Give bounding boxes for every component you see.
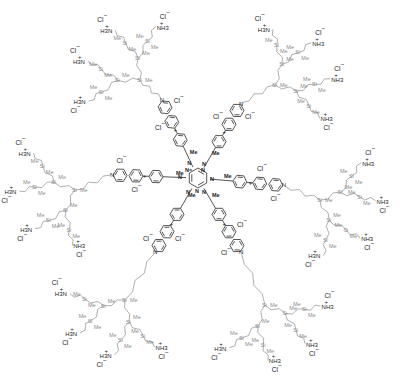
methyl-label: Me xyxy=(128,46,136,52)
minus-charge: − xyxy=(162,120,166,127)
methyl-label: Me xyxy=(70,202,78,208)
methyl-label: Me xyxy=(136,33,144,39)
methyl-label: Me xyxy=(303,76,311,82)
chloride-ion: Cl− xyxy=(132,182,143,193)
minus-charge: − xyxy=(277,191,281,198)
hydrazone-n: N xyxy=(187,160,191,166)
methyl-label: Me xyxy=(79,313,87,319)
minus-charge: − xyxy=(76,43,80,50)
silicon-label: Si xyxy=(98,66,103,72)
arm-left: NMe+NCl−Cl−SiMeSiMeSiMeMeNH3+Cl−SiMeMeH3… xyxy=(1,135,186,259)
plus-charge: + xyxy=(170,221,174,227)
minus-charge: − xyxy=(219,109,223,116)
silicon-label: Si xyxy=(357,194,362,200)
pyridinium-n: N xyxy=(282,182,286,188)
chloride-ion: Cl− xyxy=(237,217,248,228)
minus-charge: − xyxy=(138,182,142,189)
methyl-label: Me xyxy=(94,324,102,330)
arm-bottom-right: NMe+NCl−Cl−SiMeSiMeSiMeMeNH3+Cl−SiMeMeNH… xyxy=(202,188,335,373)
minus-charge: − xyxy=(372,145,376,152)
plus-charge: + xyxy=(105,348,109,354)
plus-charge: + xyxy=(324,111,328,117)
chloride-ion: Cl− xyxy=(245,109,256,120)
methyl-label: Me xyxy=(88,302,96,308)
ammonium-group: NH3+ xyxy=(362,156,375,167)
arm-top-left: NMe+NCl−Cl−SiMeSiMeSiMeMeH3N+Cl−SiMeMeH3… xyxy=(70,9,198,167)
pyridinium-n: N xyxy=(239,101,243,107)
silicon-label: Si xyxy=(349,173,354,179)
minus-charge: − xyxy=(315,346,319,353)
plus-charge: + xyxy=(334,72,338,78)
silicon-label: Si xyxy=(279,61,284,67)
chloride-ion: Cl− xyxy=(257,161,268,172)
silicon-label: Si xyxy=(145,38,150,44)
plus-charge: + xyxy=(160,20,164,26)
methyl-label: Me xyxy=(105,95,113,101)
silicon-label: Si xyxy=(338,189,343,195)
minus-charge: − xyxy=(386,203,390,210)
methyl-label: Me xyxy=(38,190,46,196)
methyl-label: Me xyxy=(130,297,138,303)
ammonium-group: H3N+ xyxy=(258,22,270,33)
methyl-label: Me xyxy=(348,189,356,195)
methyl-label: Me xyxy=(80,187,88,193)
methyl-label: Me xyxy=(108,298,116,304)
core-n-label: N≈ xyxy=(185,167,192,173)
chloride-ion: Cl− xyxy=(97,12,108,23)
chloride-ion: Cl− xyxy=(160,9,171,20)
silicon-label: Si xyxy=(343,227,348,233)
minus-charge: − xyxy=(104,12,108,19)
methyl-label: Me xyxy=(131,328,139,334)
methyl-label: Me xyxy=(37,212,45,218)
silicon-label: Si xyxy=(323,237,328,243)
methyl-label: Me xyxy=(340,168,348,174)
minus-charge: − xyxy=(227,245,231,252)
silicon-label: Si xyxy=(326,217,331,223)
methyl-label: Me xyxy=(104,72,112,78)
methyl-label: Me xyxy=(212,192,220,198)
plus-charge: + xyxy=(309,337,313,343)
methyl-label: Me xyxy=(334,222,342,228)
ammonium-group: NH3+ xyxy=(331,72,344,83)
methyl-label: Me xyxy=(293,301,301,307)
methyl-label: Me xyxy=(286,44,294,50)
methyl-label: Me xyxy=(124,343,132,349)
methyl-label: Me xyxy=(190,149,198,155)
minus-charge: − xyxy=(69,335,73,342)
minus-charge: − xyxy=(261,11,265,18)
methyl-label: Me xyxy=(122,72,130,78)
minus-charge: − xyxy=(165,349,169,356)
plus-charge: + xyxy=(79,94,83,100)
minus-charge: − xyxy=(278,362,282,369)
chloride-ion: Cl− xyxy=(175,231,186,242)
pyridinium-n: N xyxy=(239,249,243,255)
chloride-ion: Cl− xyxy=(143,231,154,242)
plus-charge: + xyxy=(60,286,64,292)
methyl-label: Me xyxy=(280,82,288,88)
methyl-label: Me xyxy=(270,302,278,308)
chloride-ion: Cl− xyxy=(315,25,326,36)
minus-charge: − xyxy=(22,135,26,142)
plus-charge: + xyxy=(78,54,82,60)
chloride-ion: Cl− xyxy=(70,43,81,54)
silicon-label: Si xyxy=(306,103,311,109)
hydrazone-n: N xyxy=(202,161,206,167)
methyl-label: Me xyxy=(109,332,117,338)
plus-charge: + xyxy=(70,326,74,332)
methyl-label: Me xyxy=(245,341,253,347)
plus-charge: + xyxy=(223,221,227,227)
methyl-label: Me xyxy=(52,223,60,229)
methyl-label: Me xyxy=(265,37,273,43)
minus-charge: − xyxy=(180,93,184,100)
chloride-ion: Cl− xyxy=(213,109,224,120)
minus-charge: − xyxy=(24,231,28,238)
plus-charge: + xyxy=(24,146,28,152)
methyl-label: Me xyxy=(23,179,31,185)
plus-charge: + xyxy=(174,127,178,133)
methyl-label: Me xyxy=(133,314,141,320)
minus-charge: − xyxy=(8,193,12,200)
minus-charge: − xyxy=(166,9,170,16)
core-n-label: N xyxy=(201,167,205,173)
hydrazone-n: N xyxy=(210,176,214,182)
molecule-structure: N≈NNNMe+NCl−Cl−SiMeSiMeSiMeMeH3N+Cl−SiMe… xyxy=(0,0,400,382)
